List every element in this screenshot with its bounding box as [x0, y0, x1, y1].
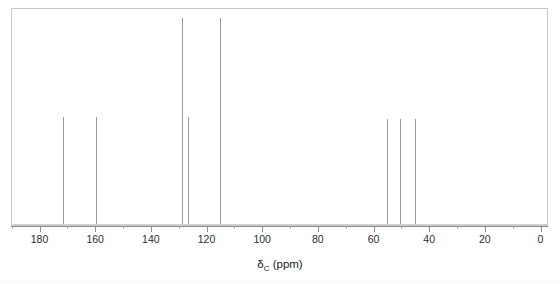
axis-tick-label: 160: [86, 233, 104, 245]
axis-minor-tick: [12, 226, 13, 229]
axis-minor-tick: [401, 226, 402, 229]
axis-major-tick: [95, 226, 96, 232]
axis-tick-label: 140: [142, 233, 160, 245]
spectrum-peak: [63, 117, 64, 225]
axis-major-tick: [429, 226, 430, 232]
x-axis-line: [11, 226, 548, 227]
axis-tick-label: 0: [538, 233, 544, 245]
axis-tick-label: 80: [312, 233, 324, 245]
axis-minor-tick: [457, 226, 458, 229]
spectrum-peak: [220, 18, 221, 225]
nmr-spectrum-figure: 180160140120100806040200 δC (ppm): [0, 0, 560, 284]
scan-artifact: [0, 280, 560, 282]
spectrum-peak: [188, 117, 189, 225]
axis-tick-label: 20: [479, 233, 491, 245]
axis-major-tick: [318, 226, 319, 232]
axis-minor-tick: [513, 226, 514, 229]
axis-tick-label: 180: [31, 233, 49, 245]
x-axis: 180160140120100806040200: [11, 226, 548, 238]
spectrum-peak: [400, 119, 401, 225]
axis-major-tick: [262, 226, 263, 232]
spectrum-baseline: [12, 224, 547, 225]
axis-tick-label: 120: [198, 233, 216, 245]
plot-frame: [11, 8, 548, 226]
axis-minor-tick: [346, 226, 347, 229]
axis-tick-label: 100: [253, 233, 271, 245]
spectrum-peak: [415, 119, 416, 225]
spectrum-peak: [387, 119, 388, 225]
axis-tick-label: 40: [423, 233, 435, 245]
peak-layer: [12, 9, 547, 225]
axis-minor-tick: [179, 226, 180, 229]
axis-minor-tick: [67, 226, 68, 229]
axis-minor-tick: [290, 226, 291, 229]
axis-major-tick: [151, 226, 152, 232]
axis-major-tick: [485, 226, 486, 232]
axis-tick-label: 60: [368, 233, 380, 245]
axis-title-unit: (ppm): [269, 258, 302, 270]
axis-major-tick: [207, 226, 208, 232]
axis-major-tick: [541, 226, 542, 232]
x-axis-title: δC (ppm): [0, 258, 560, 273]
axis-minor-tick: [234, 226, 235, 229]
spectrum-peak: [182, 18, 183, 225]
axis-major-tick: [40, 226, 41, 232]
axis-minor-tick: [123, 226, 124, 229]
spectrum-peak: [96, 117, 97, 225]
axis-major-tick: [374, 226, 375, 232]
